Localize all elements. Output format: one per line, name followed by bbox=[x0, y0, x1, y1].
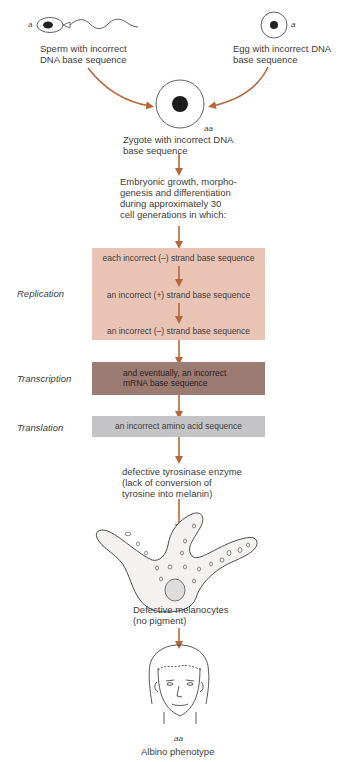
translation-label: Translation bbox=[17, 422, 63, 433]
melanocyte-cell-icon bbox=[96, 513, 257, 612]
replication-box: each incorrect (–) strand base sequence … bbox=[92, 248, 265, 340]
zygote-label: Zygote with incorrect DNA base sequence bbox=[123, 134, 233, 156]
zygote-cell-icon bbox=[156, 80, 204, 128]
transcription-label: Transcription bbox=[17, 373, 71, 384]
egg-to-zygote-arrow bbox=[212, 67, 268, 106]
replication-step-1: each incorrect (–) strand base sequence bbox=[92, 253, 265, 263]
albino-phenotype-label: Albino phenotype bbox=[141, 746, 214, 757]
transcription-text: and eventually, an incorrect mRNA base s… bbox=[123, 368, 226, 388]
human-face-icon bbox=[149, 645, 209, 724]
sperm-cell-icon bbox=[37, 18, 138, 33]
egg-cell-icon bbox=[261, 12, 287, 38]
embryonic-growth-text: Embryonic growth, morpho- genesis and di… bbox=[120, 176, 237, 220]
sperm-label: Sperm with incorrect DNA base sequence bbox=[40, 43, 127, 65]
translation-text: an incorrect amino acid sequence bbox=[92, 421, 265, 431]
transcription-box: and eventually, an incorrect mRNA base s… bbox=[92, 362, 265, 395]
translation-box: an incorrect amino acid sequence bbox=[92, 416, 265, 437]
sperm-to-zygote-arrow bbox=[88, 68, 150, 106]
tyrosinase-enzyme-text: defective tyrosinase enzyme (lack of con… bbox=[122, 466, 242, 499]
replication-label: Replication bbox=[17, 288, 64, 299]
zygote-genotype: aa bbox=[204, 123, 213, 134]
melanocyte-label: Defective melanocytes (no pigment) bbox=[133, 604, 229, 626]
sperm-allele: a bbox=[28, 19, 32, 30]
egg-allele: a bbox=[291, 19, 295, 30]
phenotype-genotype: aa bbox=[174, 733, 183, 744]
egg-label: Egg with incorrect DNA base sequence bbox=[233, 43, 331, 65]
replication-step-2: an incorrect (+) strand base sequence bbox=[92, 290, 265, 300]
replication-step-3: an incorrect (–) strand base sequence bbox=[92, 326, 265, 336]
